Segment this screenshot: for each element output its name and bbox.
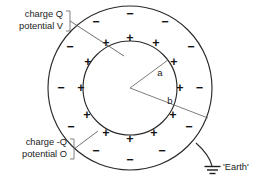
plus-sign: + (152, 36, 159, 50)
minus-sign: − (185, 120, 192, 134)
plus-sign: + (169, 108, 176, 122)
minus-sign: − (158, 144, 165, 158)
plus-sign: + (126, 132, 133, 146)
annotation-bracket-top (66, 11, 70, 31)
plus-sign: + (77, 81, 84, 95)
outer-charge-label: charge -Q (26, 137, 67, 147)
minus-sign: − (92, 144, 99, 158)
outer-shell-annotation: charge -Q potential O (22, 131, 98, 159)
plus-sign: + (83, 108, 90, 122)
plus-sign: + (126, 31, 133, 45)
earth-wire (196, 143, 212, 166)
minus-sign: − (187, 40, 194, 54)
minus-sign: − (196, 81, 203, 95)
plus-sign: + (170, 55, 177, 69)
radius-label-a: a (157, 67, 163, 78)
minus-sign: − (126, 7, 133, 21)
inner-charge-label: charge Q (25, 9, 63, 19)
spherical-capacitor-diagram: − − − − − − − − − − − − + + + + + + + + … (0, 0, 258, 184)
minus-sign: − (92, 15, 99, 29)
plus-sign: + (102, 126, 109, 140)
diagram-canvas: − − − − − − − − − − − − + + + + + + + + … (0, 0, 258, 184)
plus-sign: + (84, 55, 91, 69)
earth-label: 'Earth' (223, 162, 249, 172)
earth-connection: 'Earth' (196, 143, 249, 174)
minus-sign: − (66, 40, 73, 54)
minus-sign: − (67, 120, 74, 134)
radius-label-b: b (167, 95, 172, 106)
plus-sign: + (150, 126, 157, 140)
outer-potential-label: potential O (22, 149, 67, 159)
minus-sign: − (161, 15, 168, 29)
minus-sign: − (126, 153, 133, 167)
plus-sign: + (176, 81, 183, 95)
minus-sign: − (57, 81, 64, 95)
annotation-bracket-bottom (70, 139, 74, 159)
inner-potential-label: potential V (19, 21, 64, 31)
